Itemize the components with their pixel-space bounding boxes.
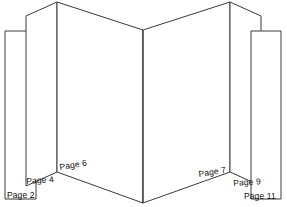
page-label-page-4: Page 4 <box>26 175 54 185</box>
page-label-page-2: Page 2 <box>7 191 35 200</box>
panel-right-outer-face <box>251 31 281 199</box>
folded-book-diagram: Page 2 Page 4 Page 6 Page 7 Page 9 Page … <box>0 0 287 207</box>
panel-left-inner <box>57 2 143 203</box>
panel-left-inner-face <box>57 2 143 203</box>
panel-left-middle <box>26 2 57 186</box>
page-label-page-11: Page 11 <box>244 192 276 201</box>
panel-left-middle-face <box>26 2 57 186</box>
panel-right-outer <box>251 31 281 199</box>
page-label-page-9: Page 9 <box>233 177 261 187</box>
